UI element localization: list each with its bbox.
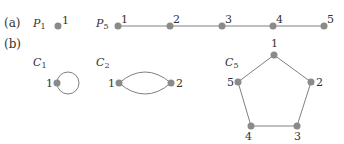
graph-diagram: (a) (b) P1 1 P5 1 2 3 4 5 C1 1 C2 1 2 <box>0 0 344 144</box>
p5-node-2-label: 2 <box>173 13 180 26</box>
graph-p1: P1 1 <box>32 14 69 31</box>
c1-node-1 <box>54 80 61 87</box>
p1-node-1-label: 1 <box>62 14 69 27</box>
graph-c1: C1 1 <box>33 56 79 94</box>
graph-p5: P5 1 2 3 4 5 <box>95 13 334 31</box>
c5-node-5-label: 5 <box>227 76 234 89</box>
c2-node-1-label: 1 <box>108 77 115 90</box>
graph-c5: C5 1 2 3 4 5 <box>225 37 323 143</box>
c5-node-2 <box>308 79 315 86</box>
panel-a-label: (a) <box>4 16 21 30</box>
graph-c2-name: C2 <box>96 56 110 70</box>
graph-p1-name: P1 <box>32 17 46 31</box>
p5-node-5-label: 5 <box>327 13 334 26</box>
c5-node-4-label: 4 <box>245 130 252 143</box>
c5-node-3 <box>294 123 301 130</box>
c5-cycle-edges <box>238 55 311 126</box>
c5-node-1-label: 1 <box>271 37 278 50</box>
c5-node-4 <box>248 123 255 130</box>
c5-node-2-label: 2 <box>316 76 323 89</box>
p5-node-3-label: 3 <box>225 13 232 26</box>
c2-node-1 <box>116 80 123 87</box>
panel-b-label: (b) <box>4 37 21 51</box>
graph-c5-name: C5 <box>225 56 239 70</box>
p1-node-1 <box>55 23 62 30</box>
p5-node-4-label: 4 <box>276 13 283 26</box>
c2-edge-lower <box>119 83 171 94</box>
graph-c1-name: C1 <box>33 56 47 70</box>
c2-node-2 <box>168 80 175 87</box>
p5-node-1-label: 1 <box>121 13 128 26</box>
c2-node-2-label: 2 <box>176 77 183 90</box>
c2-edge-upper <box>119 72 171 83</box>
c5-node-5 <box>235 79 242 86</box>
c5-node-3-label: 3 <box>294 130 301 143</box>
c1-node-1-label: 1 <box>46 77 53 90</box>
graph-c2: C2 1 2 <box>96 56 183 94</box>
c5-node-1 <box>271 52 278 59</box>
graph-p5-name: P5 <box>95 17 109 31</box>
